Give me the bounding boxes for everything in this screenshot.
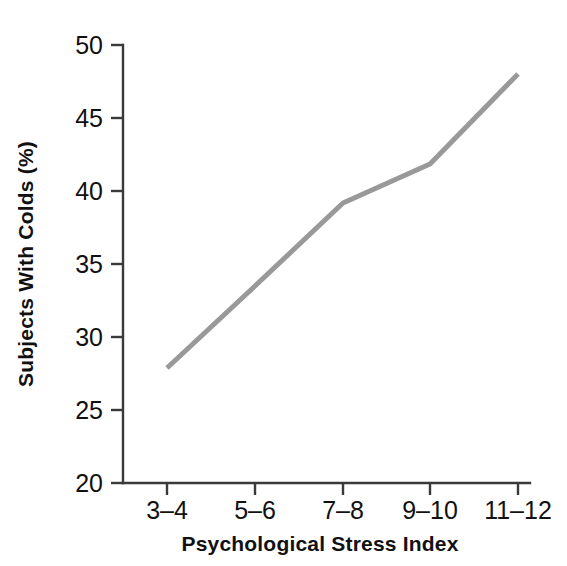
chart-figure: 50 45 40 35 30 25 20 3–4 5–6 7–8 9–10 11… <box>0 0 567 566</box>
y-tick-label-20: 20 <box>75 469 103 497</box>
x-axis-title: Psychological Stress Index <box>181 532 458 555</box>
y-axis-title: Subjects With Colds (%) <box>14 141 37 387</box>
x-tick-label-3-4: 3–4 <box>146 496 188 524</box>
x-tick-label-11-12: 11–12 <box>484 496 552 524</box>
y-tick-label-45: 45 <box>75 104 103 132</box>
y-tick-label-25: 25 <box>75 396 103 424</box>
x-tick-label-9-10: 9–10 <box>402 496 458 524</box>
x-tick-label-5-6: 5–6 <box>234 496 276 524</box>
y-tick-label-30: 30 <box>75 323 103 351</box>
x-tick-label-7-8: 7–8 <box>322 496 364 524</box>
y-tick-label-50: 50 <box>75 31 103 59</box>
y-tick-label-35: 35 <box>75 250 103 278</box>
y-tick-label-40: 40 <box>75 177 103 205</box>
line-chart: 50 45 40 35 30 25 20 3–4 5–6 7–8 9–10 11… <box>0 0 567 566</box>
